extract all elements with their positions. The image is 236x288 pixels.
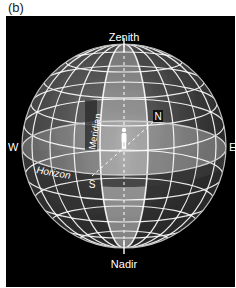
celestial-sphere-diagram: Zenith Nadir W E N S Meridian Horizon <box>0 0 236 288</box>
east-label: E <box>229 141 236 153</box>
north-label: N <box>154 111 161 122</box>
west-label: W <box>8 141 19 153</box>
zenith-label: Zenith <box>109 31 140 43</box>
nadir-label: Nadir <box>111 258 138 270</box>
south-label: S <box>89 179 96 190</box>
